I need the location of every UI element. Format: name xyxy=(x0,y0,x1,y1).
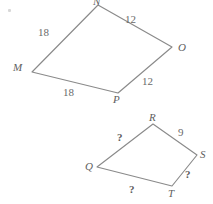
side-label-rs: 9 xyxy=(178,127,184,138)
vertex-label-p: P xyxy=(113,94,120,105)
vertex-label-r: R xyxy=(149,112,156,123)
vertex-label-t: T xyxy=(168,188,174,199)
quadrilaterals-drawing xyxy=(0,0,213,204)
side-label-no: 12 xyxy=(125,14,136,25)
vertex-label-m: M xyxy=(13,62,22,73)
side-label-st: ? xyxy=(185,169,191,180)
vertex-label-s: S xyxy=(200,149,206,160)
side-label-qr: ? xyxy=(117,132,123,143)
side-label-op: 12 xyxy=(142,76,153,87)
geometry-figure-canvas: N O P M 18 12 12 18 R S T Q ? 9 ? ? xyxy=(0,0,213,204)
vertex-label-n: N xyxy=(93,0,100,7)
vertex-label-q: Q xyxy=(85,161,93,172)
side-label-pm: 18 xyxy=(63,87,74,98)
vertex-label-o: O xyxy=(178,42,186,53)
side-label-tq: ? xyxy=(129,184,135,195)
side-label-mn: 18 xyxy=(38,27,49,38)
